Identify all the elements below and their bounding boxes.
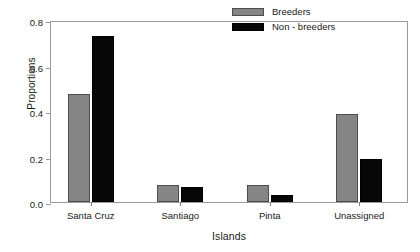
bar xyxy=(360,159,382,202)
bar xyxy=(247,185,269,202)
x-tick-label: Pinta xyxy=(259,210,281,221)
x-tick-mark xyxy=(270,202,271,206)
y-tick-label: 0.4 xyxy=(30,108,43,119)
y-tick-mark xyxy=(46,204,51,205)
y-tick-label: 0.2 xyxy=(30,153,43,164)
x-tick-mark xyxy=(359,202,360,206)
x-tick-mark xyxy=(91,202,92,206)
y-tick-mark xyxy=(46,68,51,69)
bar xyxy=(157,185,179,202)
plot-area: 0.00.20.40.60.8 Santa CruzSantiagoPintaU… xyxy=(50,21,408,203)
legend-swatch-breeders xyxy=(232,8,264,16)
y-tick-mark xyxy=(46,113,51,114)
bar-chart-figure: Proportions 0.00.20.40.60.8 Santa CruzSa… xyxy=(0,0,420,252)
legend: Breeders Non - breeders xyxy=(232,4,335,34)
bar xyxy=(271,195,293,202)
y-axis-title: Proportions xyxy=(26,9,37,159)
y-tick-mark xyxy=(46,22,51,23)
legend-item: Breeders xyxy=(232,4,335,19)
y-tick-label: 0.0 xyxy=(30,199,43,210)
y-tick-label: 0.8 xyxy=(30,17,43,28)
x-tick-label: Santa Cruz xyxy=(67,210,115,221)
legend-swatch-non-breeders xyxy=(232,23,264,31)
legend-label-non-breeders: Non - breeders xyxy=(272,21,335,32)
y-tick-label: 0.6 xyxy=(30,62,43,73)
x-tick-mark xyxy=(180,202,181,206)
x-axis-title: Islands xyxy=(50,230,408,242)
legend-label-breeders: Breeders xyxy=(272,6,311,17)
legend-item: Non - breeders xyxy=(232,19,335,34)
bar xyxy=(181,187,203,202)
bar xyxy=(92,36,114,202)
bar xyxy=(336,114,358,202)
x-tick-label: Santiago xyxy=(161,210,199,221)
x-tick-label: Unassigned xyxy=(334,210,384,221)
y-tick-mark xyxy=(46,159,51,160)
bar xyxy=(68,94,90,202)
